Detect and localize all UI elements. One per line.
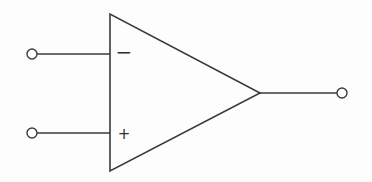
inverting-input-terminal	[27, 49, 37, 59]
plus-sign-label: +	[118, 125, 131, 143]
non-inverting-input-terminal	[27, 128, 37, 138]
amplifier-triangle	[110, 14, 260, 171]
minus-sign-label: −	[116, 40, 133, 64]
op-amp-diagram: − +	[0, 0, 372, 182]
output-terminal	[337, 88, 347, 98]
op-amp-schematic: − +	[0, 0, 372, 182]
